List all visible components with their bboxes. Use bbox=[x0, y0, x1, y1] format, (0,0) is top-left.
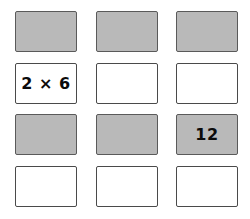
grid-card-r1-c1[interactable] bbox=[96, 63, 158, 104]
grid-card-r2-c2[interactable]: 12 bbox=[176, 114, 238, 155]
grid-card-r1-c0[interactable]: 2 × 6 bbox=[15, 63, 77, 104]
grid-card-r0-c0[interactable] bbox=[15, 11, 77, 52]
grid-card-r3-c1[interactable] bbox=[96, 166, 158, 207]
grid-card-label: 12 bbox=[195, 127, 218, 143]
grid-card-r2-c0[interactable] bbox=[15, 114, 77, 155]
grid-card-label: 2 × 6 bbox=[21, 76, 70, 92]
grid-card-r0-c2[interactable] bbox=[176, 11, 238, 52]
grid-card-r3-c2[interactable] bbox=[176, 166, 238, 207]
grid-card-r0-c1[interactable] bbox=[96, 11, 158, 52]
grid-card-r2-c1[interactable] bbox=[96, 114, 158, 155]
grid-card-r3-c0[interactable] bbox=[15, 166, 77, 207]
card-grid: 2 × 6 12 bbox=[0, 0, 250, 219]
grid-card-r1-c2[interactable] bbox=[176, 63, 238, 104]
